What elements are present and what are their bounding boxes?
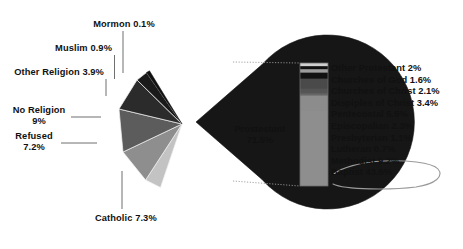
legend-row-lutheran: Lutheran 0.7% <box>331 144 463 156</box>
bar-seg-presbyterian[interactable] <box>300 92 328 94</box>
bar-seg-baptist[interactable] <box>300 111 328 186</box>
pie-label-no-religion-value: 9% <box>10 116 68 127</box>
legend-row-pentecostal: Pentecostal 5.5% <box>331 109 463 121</box>
legend-row-dispiples-of-christ: Dispiples of Christ 3.4% <box>331 98 463 110</box>
pie-label-muslim: Muslim 0.9% <box>36 43 112 54</box>
pie-label-prostestant: Prostestant <box>226 124 294 135</box>
legend-row-presbyterian: Presbyterian 1.1% <box>331 133 463 145</box>
pie-label-other-religion: Other Religion 3.9% <box>0 67 104 78</box>
pie-label-refused-value: 7.2% <box>10 142 58 153</box>
legend-row-episcopalian: Episcopalian 2.3% <box>331 121 463 133</box>
breakout-bar <box>300 63 328 186</box>
bar-seg-lutheran[interactable] <box>300 94 328 95</box>
breakout-legend: Other Protestant 2% Churches of God 1.6%… <box>331 63 463 179</box>
legend-row-other-protestant: Other Protestant 2% <box>331 63 463 75</box>
pie-label-catholic: Catholic 7.3% <box>95 213 157 224</box>
legend-row-baptist: Baptist 43.6% <box>331 167 463 179</box>
bar-seg-episcopalian[interactable] <box>300 88 328 92</box>
pie-label-no-religion: No Religion <box>10 105 68 116</box>
legend-row-churches-of-god: Churches of God 1.6% <box>331 75 463 87</box>
bar-seg-dispiples-of-christ[interactable] <box>300 73 328 79</box>
bar-seg-churches-of-christ[interactable] <box>300 69 328 73</box>
chart-canvas: Mormon 0.1% Muslim 0.9% Other Religion 3… <box>0 0 463 249</box>
pie-label-refused: Refused <box>10 131 58 142</box>
pie-label-mormon: Mormon 0.1% <box>86 19 162 30</box>
bar-seg-churches-of-god[interactable] <box>300 66 328 69</box>
pie-label-prostestant-value: 71.5% <box>226 135 294 146</box>
legend-row-methodist: Methodist 9.2% <box>331 156 463 168</box>
legend-row-churches-of-christ: Churches of Christ 2.1% <box>331 86 463 98</box>
bar-seg-other-protestant[interactable] <box>300 63 328 66</box>
bar-seg-methodist[interactable] <box>300 95 328 111</box>
bar-seg-pentecostal[interactable] <box>300 79 328 89</box>
